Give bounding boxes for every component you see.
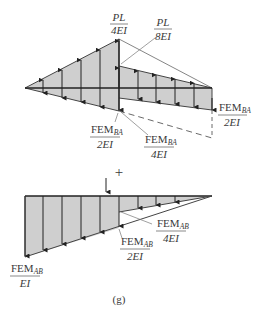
left-shaded-region xyxy=(25,39,119,111)
svg-text:4EI: 4EI xyxy=(151,148,168,160)
figure-caption: (g) xyxy=(113,293,126,306)
svg-text:PL: PL xyxy=(112,11,126,23)
svg-text:EI: EI xyxy=(19,277,32,289)
label-fem-ab-ei: FEMAB EI xyxy=(10,262,43,289)
svg-text:FEMAB: FEMAB xyxy=(121,235,153,249)
svg-text:FEMBA: FEMBA xyxy=(219,101,251,115)
svg-text:8EI: 8EI xyxy=(155,30,172,42)
lower-left-shaded-region xyxy=(25,196,119,257)
svg-text:FEMBA: FEMBA xyxy=(145,133,177,147)
svg-text:4EI: 4EI xyxy=(163,232,180,244)
lower-load-diagram: FEMAB 4EI FEMAB 2EI FEMAB EI xyxy=(10,196,212,289)
svg-text:PL: PL xyxy=(156,16,170,28)
svg-text:2EI: 2EI xyxy=(224,116,241,128)
upper-load-diagram: PL 4EI PL 8EI FEMBA 2EI FEMBA 2EI FEMBA … xyxy=(25,11,251,160)
label-fem-ba-2ei-right: FEMBA 2EI xyxy=(218,101,251,128)
plus-sign: + xyxy=(115,164,123,180)
label-fem-ab-2ei: FEMAB 2EI xyxy=(120,235,153,262)
svg-text:FEMBA: FEMBA xyxy=(91,123,123,137)
conjugate-beam-diagram: PL 4EI PL 8EI FEMBA 2EI FEMBA 2EI FEMBA … xyxy=(0,0,263,321)
label-pl-4ei: PL 4EI xyxy=(110,11,128,36)
label-pl-8ei: PL 8EI xyxy=(154,16,172,42)
svg-text:2EI: 2EI xyxy=(97,138,114,150)
svg-text:2EI: 2EI xyxy=(127,250,144,262)
label-fem-ab-4ei: FEMAB 4EI xyxy=(156,217,189,244)
svg-text:4EI: 4EI xyxy=(111,24,128,36)
label-fem-ba-2ei-left: FEMBA 2EI xyxy=(90,123,123,150)
label-fem-ba-4ei: FEMBA 4EI xyxy=(144,133,177,160)
svg-text:FEMAB: FEMAB xyxy=(11,262,43,276)
svg-text:FEMAB: FEMAB xyxy=(157,217,189,231)
